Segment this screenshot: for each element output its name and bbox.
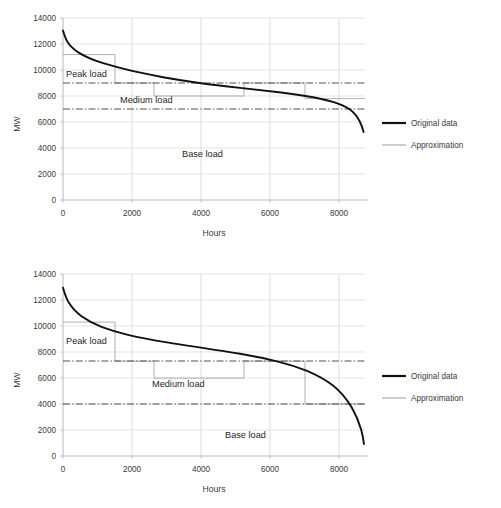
chart-panel-bottom: Peak load Medium load Base load 14000 12… [0,254,501,508]
threshold-lines-bottom [63,361,365,404]
x-axis-bottom [60,456,368,459]
medium-load-label-bottom: Medium load [152,379,205,389]
peak-load-label-bottom: Peak load [66,336,107,346]
x-gridlines-bottom [63,274,339,456]
y-tick-label: 12000 [33,40,56,49]
x-tick-label: 4000 [192,465,211,474]
x-tick-label: 8000 [330,465,349,474]
original-data-series-top [63,30,364,132]
y-tick-label: 0 [51,452,56,461]
base-load-label-top: Base load [182,149,223,159]
medium-load-label-top: Medium load [120,95,173,105]
x-tick-label: 2000 [123,209,142,218]
original-data-series-bottom [63,288,364,444]
y-tick-label: 10000 [33,322,56,331]
y-gridlines-bottom [63,274,365,456]
peak-load-label-top: Peak load [66,69,107,79]
x-tick-label: 0 [61,209,66,218]
y-tick-label: 8000 [38,92,57,101]
y-axis-bottom [60,274,63,456]
legend-label-approximation: Approximation [411,394,464,403]
legend-bottom: Original data Approximation [382,372,464,403]
y-tick-label: 10000 [33,66,56,75]
x-tick-label: 8000 [330,209,349,218]
x-tick-label: 0 [61,465,66,474]
x-tick-label: 2000 [123,465,142,474]
chart-panel-top: Peak load Medium load Base load 14000 12… [0,0,501,254]
y-tick-label: 6000 [38,374,57,383]
y-axis-title-top: MW [12,115,22,131]
base-load-label-bottom: Base load [225,430,266,440]
chart-svg-bottom: Peak load Medium load Base load 14000 12… [0,254,501,508]
approximation-series-top [63,55,365,99]
y-tick-label: 14000 [33,14,56,23]
y-tick-label: 4000 [38,400,57,409]
chart-svg-top: Peak load Medium load Base load 14000 12… [0,0,501,254]
figure-canvas: Peak load Medium load Base load 14000 12… [0,0,501,508]
x-axis-title-top: Hours [203,228,226,238]
x-tick-label: 4000 [192,209,211,218]
approximation-series-bottom [63,322,365,404]
legend-label-original-data: Original data [411,119,458,128]
y-tick-label: 6000 [38,118,57,127]
x-axis-title-bottom: Hours [203,484,226,494]
y-tick-label: 2000 [38,426,57,435]
y-axis-title-bottom: MW [12,371,22,387]
y-tick-label: 12000 [33,296,56,305]
y-axis-top [60,18,63,200]
y-tick-label: 8000 [38,348,57,357]
legend-label-approximation: Approximation [411,141,464,150]
x-tick-label: 6000 [261,465,280,474]
y-tick-label: 0 [51,196,56,205]
y-tick-label: 4000 [38,144,57,153]
y-tick-label: 2000 [38,170,57,179]
legend-top: Original data Approximation [382,119,464,150]
x-tick-label: 6000 [261,209,280,218]
x-axis-top [60,200,368,203]
legend-label-original-data: Original data [411,372,458,381]
y-tick-label: 14000 [33,270,56,279]
